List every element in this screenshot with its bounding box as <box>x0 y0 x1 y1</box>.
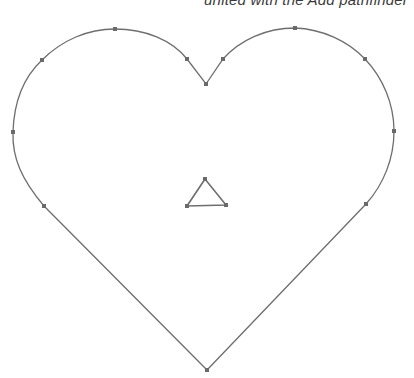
heart-outline <box>13 28 394 370</box>
canvas: united with the Add pathfinder <box>0 0 414 378</box>
heart-anchor-points <box>11 26 396 372</box>
triangle-hole <box>187 179 226 206</box>
heart-illustration <box>0 0 414 378</box>
